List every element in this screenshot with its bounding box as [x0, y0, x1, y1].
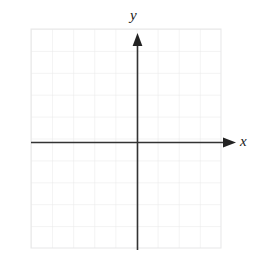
grid-lines	[31, 29, 221, 248]
x-axis-label: x	[240, 134, 247, 149]
coordinate-plane-svg	[0, 0, 261, 269]
coordinate-plane-figure: x y	[0, 0, 261, 269]
y-axis-label: y	[130, 8, 137, 23]
grid-group	[31, 29, 221, 248]
x-axis-arrowhead	[223, 138, 236, 148]
